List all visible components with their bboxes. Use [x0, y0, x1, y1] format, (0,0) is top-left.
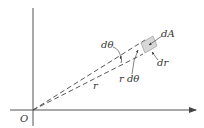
label-dtheta: dθ [101, 39, 113, 50]
label-dA: dA [161, 28, 175, 39]
label-r: r [93, 80, 99, 91]
polar-area-element-diagram: O dθ dA dr r dθ r [0, 0, 204, 128]
label-r-dtheta: r dθ [119, 73, 139, 84]
label-origin: O [20, 113, 28, 124]
area-element-dA [141, 36, 157, 53]
r-dtheta-leader [132, 50, 138, 74]
label-dr: dr [157, 57, 169, 68]
